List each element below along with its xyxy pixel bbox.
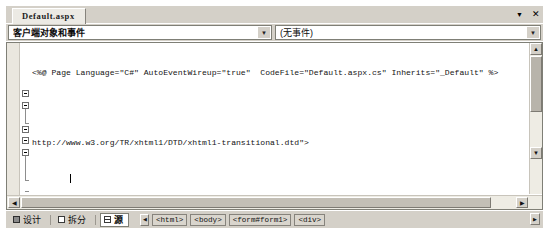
split-view-icon xyxy=(58,216,65,223)
triangle-left-icon[interactable]: ◀ xyxy=(8,197,20,208)
triangle-left-icon[interactable]: ◀ xyxy=(140,214,149,226)
fold-line xyxy=(25,156,26,180)
fold-line xyxy=(25,109,26,123)
triangle-up-icon[interactable]: ▲ xyxy=(530,43,542,55)
triangle-right-icon[interactable]: ▶ xyxy=(516,197,528,208)
view-tab-split[interactable]: 拆分 xyxy=(55,213,91,227)
document-tab-strip: Default.aspx ▼ ✕ xyxy=(6,6,543,23)
client-object-select-value: 客户端对象和事件 xyxy=(13,26,255,39)
editor-vertical-scrollbar[interactable]: ▲ ▼ xyxy=(529,43,542,194)
view-mode-tabs: 设计 拆分 源 xyxy=(10,212,129,227)
breadcrumb-item-body[interactable]: <body> xyxy=(190,214,225,226)
object-event-toolbar: 客户端对象和事件 ▼ (无事件) ▼ xyxy=(6,24,543,41)
code-line: <%@ Page Language="C#" AutoEventWireup="… xyxy=(32,67,528,79)
fold-toggle-form[interactable] xyxy=(22,137,29,144)
fold-end-form xyxy=(25,191,29,192)
close-icon[interactable]: ✕ xyxy=(531,10,540,19)
source-code-editor[interactable]: <%@ Page Language="C#" AutoEventWireup="… xyxy=(6,42,543,210)
outlining-margin xyxy=(21,43,32,195)
window-controls: ▼ ✕ xyxy=(515,8,540,21)
fold-toggle-body[interactable] xyxy=(22,126,29,133)
text-caret xyxy=(70,174,71,183)
fold-toggle-html[interactable] xyxy=(22,90,29,97)
editor-horizontal-scrollbar[interactable]: ◀ ▶ xyxy=(7,195,542,209)
breadcrumb-item-div[interactable]: <div> xyxy=(294,214,325,226)
code-line: http://www.w3.org/TR/xhtml1/DTD/xhtml1-t… xyxy=(32,137,528,149)
divider xyxy=(50,215,51,225)
breadcrumb-item-html[interactable]: <html> xyxy=(152,214,187,226)
fold-end-head xyxy=(25,123,29,124)
source-view-icon xyxy=(104,216,111,223)
view-tab-design-label: 设计 xyxy=(23,213,41,227)
tag-navigator-breadcrumb: ◀ <html> <body> <form#form1> <div> xyxy=(140,212,325,227)
triangle-down-icon[interactable]: ▼ xyxy=(530,147,542,159)
fold-toggle-head[interactable] xyxy=(22,102,29,109)
design-view-icon xyxy=(13,216,20,223)
editor-indicator-margin xyxy=(7,43,20,209)
divider xyxy=(95,215,96,225)
event-select-value: (无事件) xyxy=(280,26,524,39)
chevron-down-icon[interactable]: ▼ xyxy=(527,27,539,38)
chevron-down-icon[interactable]: ▼ xyxy=(258,27,270,38)
editor-status-bar: 设计 拆分 源 ◀ <html> <body> <form#form1> <di… xyxy=(6,211,543,228)
vertical-scrollbar-thumb[interactable] xyxy=(530,56,542,112)
breadcrumb-item-form[interactable]: <form#form1> xyxy=(229,214,292,226)
client-object-select[interactable]: 客户端对象和事件 ▼ xyxy=(8,25,272,40)
code-text-area[interactable]: <%@ Page Language="C#" AutoEventWireup="… xyxy=(32,44,528,194)
visual-studio-aspx-editor-window: Default.aspx ▼ ✕ 客户端对象和事件 ▼ (无事件) ▼ xyxy=(0,0,549,234)
event-select[interactable]: (无事件) ▼ xyxy=(275,25,541,40)
view-tab-source[interactable]: 源 xyxy=(100,213,129,227)
document-tab-default-aspx[interactable]: Default.aspx xyxy=(12,8,86,24)
fold-toggle-div[interactable] xyxy=(22,149,29,156)
horizontal-scrollbar-thumb[interactable] xyxy=(21,197,491,208)
view-tab-split-label: 拆分 xyxy=(68,213,86,227)
view-tab-design[interactable]: 设计 xyxy=(10,213,46,227)
chevron-down-icon[interactable]: ▼ xyxy=(515,10,524,19)
code-line xyxy=(32,172,528,184)
triangle-right-icon[interactable]: ▶ xyxy=(530,213,540,225)
view-tab-source-label: 源 xyxy=(114,213,123,227)
code-line xyxy=(32,102,528,114)
fold-end-div xyxy=(25,180,29,181)
